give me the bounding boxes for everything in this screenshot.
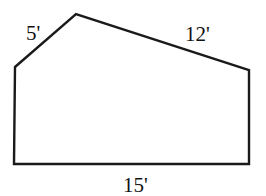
pentagon-shape [14,14,249,164]
label-top-slope: 12' [185,22,210,46]
label-diagonal-left: 5' [26,21,40,45]
floor-plan-diagram: 5' 12' 15' [0,0,266,196]
label-bottom: 15' [123,173,148,196]
